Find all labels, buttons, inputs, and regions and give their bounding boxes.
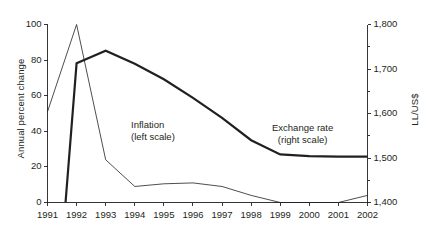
left-axis-tick-label: 20 <box>4 160 42 171</box>
right-axis-tick-label: 1,500 <box>374 152 414 163</box>
exchange-annotation-line1: Exchange rate <box>272 122 333 134</box>
chart-container: Annual percent change LL/US$ 02040608010… <box>0 0 439 240</box>
exchange-rate-series-annotation: Exchange rate (right scale) <box>272 122 333 146</box>
x-axis-tick-label: 2002 <box>348 209 388 220</box>
inflation-series-line <box>48 25 368 203</box>
inflation-annotation-line2: (left scale) <box>131 131 175 143</box>
left-axis-tick-label: 80 <box>4 54 42 65</box>
left-axis-tick-label: 0 <box>4 196 42 207</box>
left-axis-tick-label: 40 <box>4 125 42 136</box>
axes-group <box>44 25 371 207</box>
series-group <box>48 25 368 203</box>
inflation-series-annotation: Inflation (left scale) <box>131 119 175 143</box>
exchange-annotation-line2: (right scale) <box>272 134 333 146</box>
right-axis-tick-label: 1,700 <box>374 63 414 74</box>
inflation-annotation-line1: Inflation <box>131 119 175 131</box>
right-axis-tick-label: 1,800 <box>374 18 414 29</box>
right-axis-tick-label: 1,400 <box>374 196 414 207</box>
left-axis-tick-label: 60 <box>4 89 42 100</box>
left-axis-tick-label: 100 <box>4 18 42 29</box>
right-axis-tick-label: 1,600 <box>374 107 414 118</box>
